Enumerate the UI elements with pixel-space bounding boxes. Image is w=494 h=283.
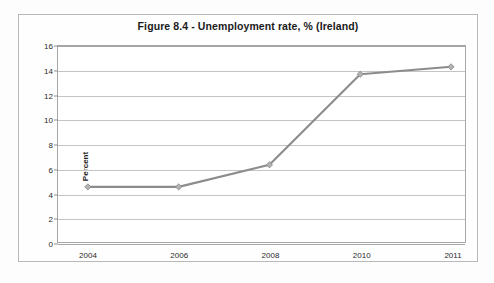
y-tick-label: 12: [44, 91, 53, 100]
y-tick-label: 2: [49, 215, 53, 224]
x-tick-label: 2006: [170, 251, 188, 260]
data-series-layer: [58, 46, 465, 242]
x-tick-label: 2010: [353, 251, 371, 260]
plot-area: Percent 0246810121416 200420062008201020…: [57, 45, 466, 243]
figure-container: Figure 8.4 - Unemployment rate, % (Irela…: [0, 0, 494, 283]
chart-title: Figure 8.4 - Unemployment rate, % (Irela…: [18, 20, 478, 32]
y-tick-label: 8: [49, 141, 53, 150]
y-tick-label: 16: [44, 42, 53, 51]
y-tick-label: 0: [49, 240, 53, 249]
series-line: [88, 67, 451, 187]
data-point-marker: [176, 184, 182, 190]
y-tick-label: 4: [49, 190, 53, 199]
y-tick-mark: [54, 244, 58, 245]
data-point-marker: [85, 184, 91, 190]
y-tick-label: 6: [49, 165, 53, 174]
y-tick-label: 14: [44, 66, 53, 75]
series-markers: [85, 64, 454, 190]
x-tick-label: 2004: [79, 251, 97, 260]
gridline: [58, 244, 465, 245]
y-tick-label: 10: [44, 116, 53, 125]
x-tick-label: 2011: [444, 251, 461, 260]
x-tick-label: 2008: [262, 251, 280, 260]
data-point-marker: [448, 64, 454, 70]
